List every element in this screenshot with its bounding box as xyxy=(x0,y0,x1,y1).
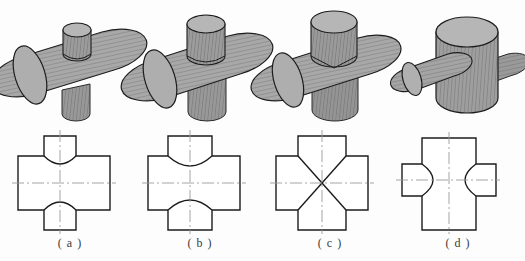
pictorial-c-svg xyxy=(262,4,388,122)
ortho-c-svg xyxy=(272,134,376,232)
ortho-view-c xyxy=(272,134,376,232)
ortho-d-svg xyxy=(400,134,504,232)
ortho-view-d xyxy=(400,134,504,232)
figure-label-a: ( a ) xyxy=(40,236,100,251)
drawing-page: ( a ) xyxy=(0,0,525,261)
figure-label-b: ( b ) xyxy=(170,236,230,251)
pictorial-a-svg xyxy=(6,4,132,122)
pictorial-d-svg xyxy=(392,4,518,122)
figure-label-c: ( c ) xyxy=(300,236,360,251)
ortho-b-svg xyxy=(144,134,248,232)
ortho-a-svg xyxy=(14,134,118,232)
ortho-view-a xyxy=(14,134,118,232)
pictorial-b xyxy=(134,4,260,122)
pictorial-b-svg xyxy=(134,4,260,122)
figure-label-d: ( d ) xyxy=(428,236,488,251)
pictorial-d xyxy=(392,4,518,122)
pictorial-c xyxy=(262,4,388,122)
pictorial-a xyxy=(6,4,132,122)
ortho-view-b xyxy=(144,134,248,232)
